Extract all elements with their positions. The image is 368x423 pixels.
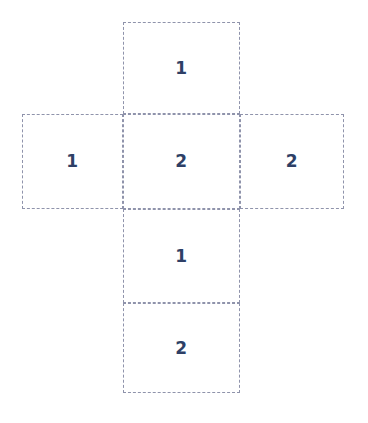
net-cell-middle-left: 1	[22, 114, 123, 209]
net-cell-label-middle-right: 2	[286, 153, 298, 170]
net-cell-label-lower-center: 1	[175, 248, 187, 265]
net-cell-label-middle-center: 2	[175, 153, 187, 170]
net-cell-lower-center: 1	[123, 209, 240, 303]
cube-net-diagram: 1 1 2 2 1 2	[0, 0, 368, 423]
net-cell-label-bottom-center: 2	[175, 340, 187, 357]
net-cell-middle-center: 2	[123, 114, 240, 209]
net-cell-label-middle-left: 1	[66, 153, 78, 170]
net-cell-label-top: 1	[175, 60, 187, 77]
net-cell-top: 1	[123, 22, 240, 114]
net-cell-bottom-center: 2	[123, 303, 240, 393]
net-cell-middle-right: 2	[240, 114, 344, 209]
